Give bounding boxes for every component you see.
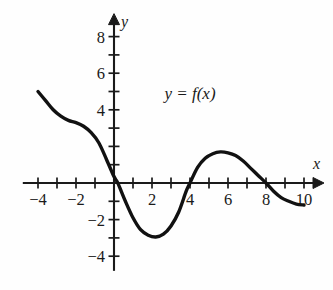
y-tick-label: 8 xyxy=(97,28,105,47)
axes-group xyxy=(23,14,324,271)
x-axis-name-label: x xyxy=(312,155,320,172)
y-axis-name-label: y xyxy=(119,13,129,31)
x-axis-arrow xyxy=(313,178,324,189)
function-graph-svg: −4−2246810864−2−4 y = f(x) x y xyxy=(0,0,333,290)
x-tick-label: 2 xyxy=(148,190,156,209)
y-tick-label: −2 xyxy=(87,211,105,230)
y-tick-label: 4 xyxy=(97,101,105,120)
graph-figure: −4−2246810864−2−4 y = f(x) x y xyxy=(0,0,333,290)
function-curve xyxy=(38,92,304,238)
x-tick-label: 8 xyxy=(262,190,270,209)
y-tick-label: −4 xyxy=(87,247,105,266)
function-annotation-label: y = f(x) xyxy=(162,84,215,103)
y-axis-arrow xyxy=(109,14,120,25)
x-tick-label: −4 xyxy=(29,190,47,209)
y-tick-label: 6 xyxy=(97,64,105,83)
x-tick-label: −2 xyxy=(67,190,85,209)
tick-labels-group: −4−2246810864−2−4 xyxy=(29,28,312,267)
x-tick-label: 6 xyxy=(224,190,232,209)
